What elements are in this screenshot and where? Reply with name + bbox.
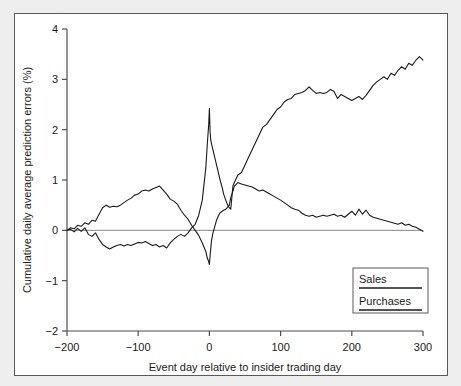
y-tick-label: −1 (45, 275, 58, 287)
x-tick-label: −200 (55, 341, 80, 353)
y-tick-label: 2 (52, 124, 58, 136)
y-tick-label: −2 (45, 325, 58, 337)
legend-label-purchases: Purchases (359, 295, 411, 307)
series-line-purchases (67, 183, 423, 265)
y-axis-title: Cumulative daily average prediction erro… (21, 67, 33, 293)
y-tick-label: 4 (52, 23, 58, 35)
x-tick-label: 200 (343, 341, 361, 353)
x-tick-label: 300 (414, 341, 432, 353)
y-tick-label: 3 (52, 73, 58, 85)
x-tick-label: 0 (206, 341, 212, 353)
legend-label-sales: Sales (359, 273, 387, 285)
x-tick-label: 100 (271, 341, 289, 353)
x-tick-label: −100 (126, 341, 151, 353)
y-tick-label: 1 (52, 174, 58, 186)
chart-canvas: −2−101234−200−1000100200300Event day rel… (15, 14, 447, 375)
y-tick-label: 0 (52, 224, 58, 236)
x-axis-title: Event day relative to insider trading da… (149, 361, 342, 373)
legend: SalesPurchases (353, 268, 428, 313)
figure-frame: −2−101234−200−1000100200300Event day rel… (14, 13, 448, 376)
series-line-sales (67, 57, 423, 249)
figure-page: −2−101234−200−1000100200300Event day rel… (0, 0, 461, 386)
